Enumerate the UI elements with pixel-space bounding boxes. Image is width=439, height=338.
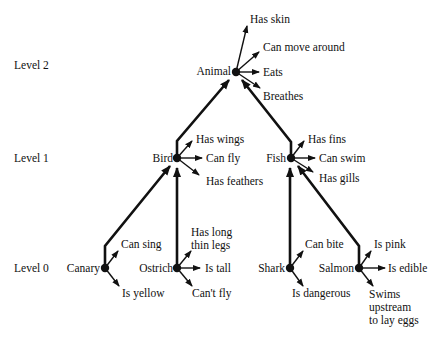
node-dot-animal — [232, 68, 240, 76]
level-1-label: Level 1 — [14, 152, 49, 164]
property-is-dangerous: Is dangerous — [292, 287, 350, 299]
property-can-swim: Can swim — [319, 152, 365, 164]
property-has-gills: Has gills — [319, 172, 360, 184]
node-dot-shark — [286, 264, 294, 272]
node-shark: Shark — [258, 262, 285, 274]
property-eats: Eats — [263, 66, 283, 78]
node-dot-canary — [101, 264, 109, 272]
property-has-feathers: Has feathers — [206, 175, 263, 187]
property-breathes: Breathes — [263, 90, 303, 102]
level-0-label: Level 0 — [14, 262, 49, 274]
property-has-long: Has long — [191, 226, 232, 238]
property-to-lay-eggs: to lay eggs — [369, 314, 419, 326]
property-can-bite: Can bite — [305, 238, 344, 250]
property-has-skin: Has skin — [250, 13, 290, 25]
node-dot-salmon — [355, 264, 363, 272]
node-animal: Animal — [197, 65, 232, 77]
node-ostrich: Ostrich — [139, 262, 173, 274]
level-2-label: Level 2 — [14, 59, 49, 71]
node-bird: Bird — [153, 152, 173, 164]
property-can-move-around: Can move around — [263, 41, 345, 53]
property-can-fly: Can fly — [206, 152, 240, 164]
property-upstream: upstream — [369, 301, 411, 313]
node-salmon: Salmon — [319, 262, 354, 274]
property-cant-fly: Can't fly — [192, 287, 231, 299]
property-is-pink: Is pink — [374, 238, 406, 250]
node-dot-ostrich — [173, 264, 181, 272]
property-is-edible: Is edible — [388, 262, 427, 274]
property-has-wings: Has wings — [196, 133, 244, 145]
node-canary: Canary — [67, 262, 100, 274]
property-thin-legs: thin legs — [191, 239, 230, 251]
property-is-yellow: Is yellow — [122, 287, 164, 299]
node-dot-bird — [173, 154, 181, 162]
edge-bird-animal — [177, 80, 229, 158]
node-fish: Fish — [266, 152, 286, 164]
node-dot-fish — [287, 154, 295, 162]
property-is-tall: Is tall — [205, 262, 231, 274]
property-swims: Swims — [369, 288, 400, 300]
edge-canary-bird — [105, 166, 170, 268]
property-has-fins: Has fins — [308, 133, 346, 145]
property-can-sing: Can sing — [121, 238, 162, 250]
